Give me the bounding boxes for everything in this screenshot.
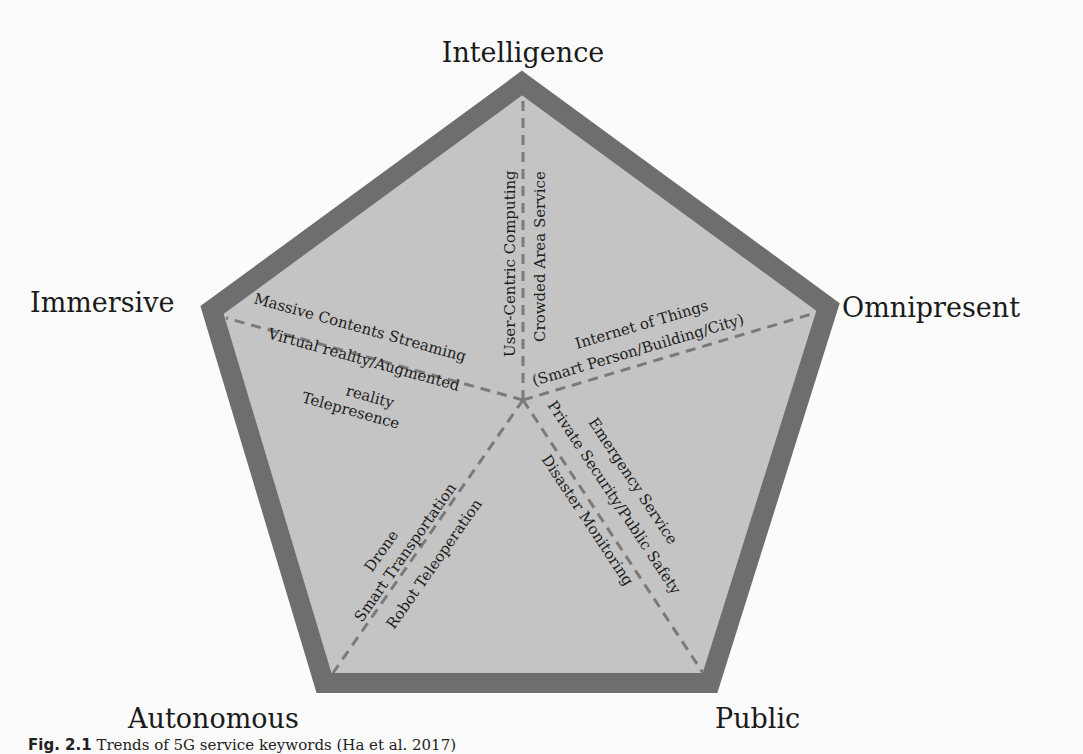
keyword-crowded-area-service: Crowded Area Service bbox=[531, 171, 549, 342]
figure-caption-label: Fig. 2.1 bbox=[28, 736, 92, 754]
figure-caption: Fig. 2.1 Trends of 5G service keywords (… bbox=[28, 736, 456, 754]
figure-caption-text: Trends of 5G service keywords (Ha et al.… bbox=[96, 736, 456, 754]
vertex-label-immersive: Immersive bbox=[30, 287, 174, 318]
keyword-user-centric-computing: User-Centric Computing bbox=[501, 170, 519, 357]
vertex-label-autonomous: Autonomous bbox=[127, 703, 299, 734]
vertex-label-omnipresent: Omnipresent bbox=[842, 292, 1020, 323]
pentagon-shape bbox=[212, 83, 828, 683]
vertex-label-public: Public bbox=[715, 703, 800, 734]
vertex-label-intelligence: Intelligence bbox=[442, 37, 605, 68]
